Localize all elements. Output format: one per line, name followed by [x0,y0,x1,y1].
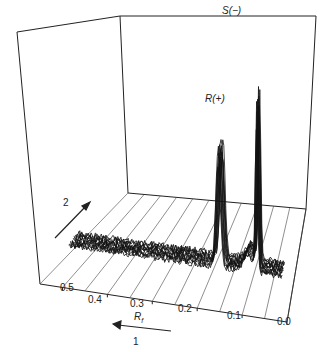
chromatogram-traces [69,87,285,279]
peak-label-r: R(+) [205,93,225,104]
peak-label-s: S(−) [222,5,241,16]
chart-canvas [0,0,322,352]
tick-label-0.5: 0.5 [60,282,74,293]
tick-label-0.4: 0.4 [88,294,102,305]
arrow-1-label: 1 [133,336,139,347]
tick-label-0.1: 0.1 [227,310,241,321]
tick-label-0.0: 0.0 [277,316,291,327]
arrow-2-icon [55,202,90,238]
tick-label-0.2: 0.2 [178,303,192,314]
axis-label-rf: Rf [134,311,143,324]
arrow-2-label: 2 [63,197,69,208]
tick-label-0.3: 0.3 [130,298,144,309]
